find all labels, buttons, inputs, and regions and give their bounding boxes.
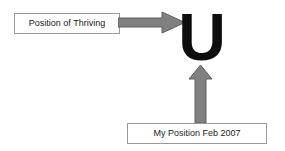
label-box-position-of-thriving: Position of Thriving bbox=[14, 13, 120, 34]
arrow-right-icon bbox=[118, 11, 186, 34]
u-curve-letter: U bbox=[182, 4, 222, 70]
label-box-my-position: My Position Feb 2007 bbox=[127, 123, 267, 144]
label-text-position-of-thriving: Position of Thriving bbox=[29, 19, 105, 28]
label-text-my-position: My Position Feb 2007 bbox=[153, 129, 240, 138]
arrow-up-icon bbox=[188, 64, 213, 124]
diagram-canvas: Position of Thriving U My Position Feb 2… bbox=[0, 0, 285, 151]
